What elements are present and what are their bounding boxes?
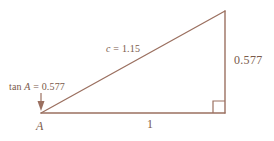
tangent-value-text: = 0.577 (31, 81, 65, 92)
hypotenuse-length-label: c = 1.15 (106, 44, 140, 54)
tangent-prefix-text: tan (9, 81, 24, 92)
side-hypotenuse-line (41, 11, 225, 113)
opposite-side-length-label: 0.577 (234, 54, 263, 66)
vertex-a-label: A (36, 120, 43, 132)
adjacent-side-length-label: 1 (147, 118, 153, 130)
triangle-figure: tan A = 0.577 c = 1.15 0.577 1 A (0, 0, 274, 141)
hypotenuse-value-text: = 1.15 (111, 43, 141, 54)
tangent-annotation-label: tan A = 0.577 (9, 82, 65, 92)
right-angle-icon (213, 101, 225, 113)
annotation-arrow-head-icon (38, 101, 45, 111)
